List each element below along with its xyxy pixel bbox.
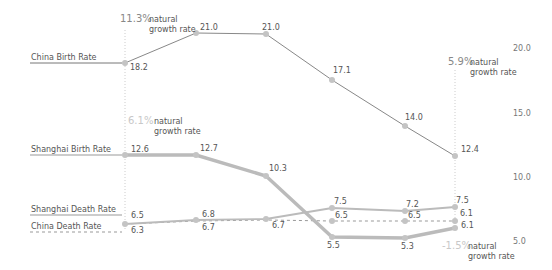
- value-label: 6.7: [202, 223, 215, 232]
- legend-shanghai-death-rate: Shanghai Death Rate: [31, 205, 116, 214]
- annotation-growth-neg-1-5: -1.5% natural growth rate: [442, 240, 515, 261]
- series-shanghai-birth-rate: [125, 155, 455, 238]
- value-label: 17.1: [333, 66, 351, 75]
- value-label: 7.2: [406, 200, 419, 209]
- value-label: 12.4: [461, 145, 479, 154]
- svg-text:growth rate: growth rate: [470, 68, 517, 77]
- svg-text:natural: natural: [470, 58, 499, 67]
- value-label: 6.1: [461, 221, 474, 230]
- annotation-growth-11-3: 11.3% natural growth rate: [120, 13, 196, 34]
- value-label: 6.5: [335, 211, 348, 220]
- y-tick-20: 20.0: [513, 44, 531, 53]
- birth-death-rate-chart: China Birth Rate Shanghai Birth Rate Sha…: [0, 0, 552, 270]
- legend-shanghai-birth-rate: Shanghai Birth Rate: [31, 145, 111, 154]
- series-china-birth-rate: [125, 33, 455, 156]
- value-label: 7.5: [456, 196, 469, 205]
- y-tick-5: 5.0: [513, 237, 526, 246]
- value-label: 21.0: [200, 23, 218, 32]
- svg-text:natural: natural: [154, 117, 183, 126]
- value-label: 6.5: [408, 211, 421, 220]
- annotation-growth-6-1: 6.1% natural growth rate: [128, 115, 201, 136]
- svg-text:natural: natural: [468, 242, 497, 251]
- svg-text:6.1%: 6.1%: [128, 115, 153, 126]
- value-label: 6.3: [131, 226, 144, 235]
- svg-text:-1.5%: -1.5%: [442, 240, 471, 251]
- value-label: 12.7: [200, 144, 218, 153]
- legend-china-birth-rate: China Birth Rate: [31, 53, 97, 62]
- value-label: 14.0: [405, 113, 423, 122]
- value-label: 6.7: [272, 221, 285, 230]
- svg-text:growth rate: growth rate: [468, 252, 515, 261]
- annotation-growth-5-9: 5.9% natural growth rate: [448, 56, 517, 77]
- svg-text:growth rate: growth rate: [154, 127, 201, 136]
- svg-text:growth rate: growth rate: [149, 25, 196, 34]
- value-label: 10.3: [269, 164, 287, 173]
- value-label: 5.5: [327, 241, 340, 250]
- value-label: 21.0: [262, 23, 280, 32]
- legend-china-death-rate: China Death Rate: [31, 222, 102, 231]
- value-label: 5.3: [401, 242, 414, 251]
- value-label: 6.5: [131, 211, 144, 220]
- value-label: 6.1: [460, 209, 473, 218]
- value-label: 7.5: [334, 197, 347, 206]
- value-label: 6.8: [202, 210, 215, 219]
- svg-text:11.3%: 11.3%: [120, 13, 152, 24]
- y-tick-15: 15.0: [513, 109, 531, 118]
- value-label: 12.6: [131, 145, 149, 154]
- svg-text:natural: natural: [149, 15, 178, 24]
- value-label: 18.2: [130, 63, 148, 72]
- y-tick-10: 10.0: [513, 173, 531, 182]
